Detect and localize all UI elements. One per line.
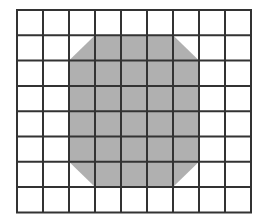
grid-figure: [0, 0, 256, 218]
